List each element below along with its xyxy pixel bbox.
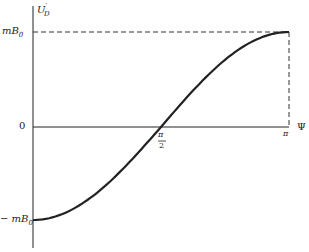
y-tick-min: − mB0 <box>0 213 33 224</box>
y-tick-zero: 0 <box>19 120 25 131</box>
x-tick-pi-half-den: 2 <box>159 141 164 150</box>
x-tick-pi-half-num: π <box>158 130 163 139</box>
y-tick-max: mB0 <box>2 25 23 36</box>
chart-canvas <box>0 0 309 252</box>
cosine-curve <box>33 32 289 220</box>
x-axis-label: Ψ <box>297 121 306 132</box>
x-tick-pi: π <box>283 129 288 138</box>
y-axis-label: U′D <box>37 4 53 15</box>
